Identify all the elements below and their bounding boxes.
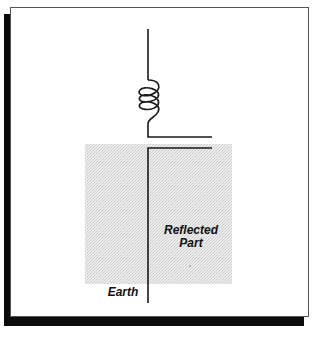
ground-region: [85, 144, 232, 284]
loading-coil: [139, 80, 159, 124]
reflected-part-label: Reflected Part: [156, 224, 226, 250]
antenna-diagram: [0, 0, 316, 342]
earth-label: Earth: [103, 286, 143, 299]
reflected-label-line2: Part: [156, 237, 226, 250]
speck: [189, 265, 190, 266]
feed-wire: [148, 124, 212, 137]
